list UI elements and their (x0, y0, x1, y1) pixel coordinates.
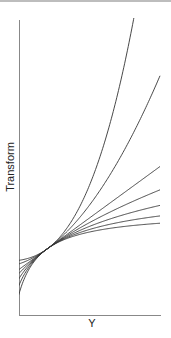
y-axis-label: Transform (3, 137, 17, 197)
curve-lambda-0 (19, 205, 160, 279)
curve-lambda-3 (19, 0, 160, 260)
transform-curves (19, 0, 160, 295)
chart-plot (0, 0, 171, 338)
curve-lambda-1 (19, 223, 160, 295)
x-axis-label: Y (80, 316, 104, 330)
curve-lambda-2 (19, 76, 160, 264)
